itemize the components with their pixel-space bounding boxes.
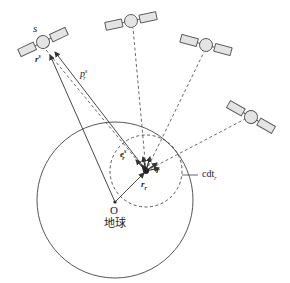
earth-center-label: O bbox=[110, 205, 118, 216]
receiver-vector-label: rr bbox=[141, 180, 147, 191]
receiver-position-vector bbox=[115, 173, 144, 202]
satellite-label: s bbox=[33, 23, 37, 34]
satellite-s-icon bbox=[17, 25, 70, 59]
satellite-4-icon bbox=[225, 98, 277, 135]
satellite-3-icon bbox=[179, 32, 233, 58]
los-dashed-sat4 bbox=[146, 119, 245, 171]
receiver-point bbox=[143, 168, 149, 174]
position-correction-label: r bbox=[156, 166, 160, 175]
pseudorange-arrow bbox=[55, 52, 142, 165]
gnss-diagram: s rs psr esr r rr cdtr O 地球 bbox=[0, 0, 290, 283]
pseudorange-label: psr bbox=[80, 68, 86, 81]
unit-vector-label: esr bbox=[120, 148, 125, 161]
los-dashed-sat3 bbox=[146, 52, 204, 171]
los-dashed-sat1 bbox=[46, 50, 146, 171]
satellite-position-label: rs bbox=[35, 53, 41, 64]
earth-label: 地球 bbox=[104, 218, 126, 229]
earth-circle bbox=[37, 122, 193, 278]
diagram-canvas bbox=[0, 0, 290, 283]
satellite-2-icon bbox=[104, 9, 158, 33]
clock-bias-label: cdtr bbox=[202, 169, 217, 181]
los-dashed-sat2 bbox=[133, 28, 146, 171]
